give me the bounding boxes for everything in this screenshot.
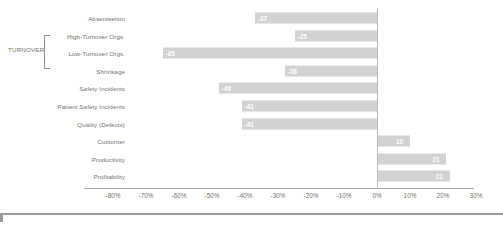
bar bbox=[377, 136, 410, 147]
category-label: Customer bbox=[0, 138, 125, 145]
bar bbox=[295, 30, 378, 41]
bar bbox=[242, 101, 377, 112]
category-label: Productivity bbox=[0, 155, 125, 162]
bar-value-label: -28 bbox=[288, 67, 297, 74]
category-label: Profitability bbox=[0, 173, 125, 180]
chart-row: Safety Incidents-48 bbox=[0, 80, 503, 96]
category-label: Quality (Defects) bbox=[0, 120, 125, 127]
bar-value-label: -25 bbox=[298, 32, 307, 39]
bar-value-label: -48 bbox=[222, 85, 231, 92]
x-tick-label: 30% bbox=[456, 191, 496, 200]
bar-value-label: 21 bbox=[432, 155, 439, 162]
turnover-group-label: TURNOVER bbox=[8, 46, 44, 54]
chart-row: Absenteeism-37 bbox=[0, 10, 503, 26]
x-axis-line bbox=[84, 188, 474, 189]
category-label: Absenteeism bbox=[0, 15, 125, 22]
bar-value-label: -41 bbox=[245, 103, 254, 110]
chart-row: Quality (Defects)-41 bbox=[0, 116, 503, 132]
category-label: Safety Incidents bbox=[0, 85, 125, 92]
chart-row: Productivity21 bbox=[0, 151, 503, 167]
bar bbox=[219, 83, 377, 94]
turnover-group: TURNOVER bbox=[0, 33, 120, 69]
bar-value-label: -41 bbox=[245, 120, 254, 127]
zero-axis-line bbox=[377, 8, 378, 188]
bar-value-label: -37 bbox=[258, 15, 267, 22]
bar-value-label: 10 bbox=[396, 138, 403, 145]
category-label: Patient Safety Incidents bbox=[0, 103, 125, 110]
x-axis-tick-labels: -80%-70%-60%-50%-40%-30%-20%-10%0%10%20%… bbox=[0, 191, 503, 205]
chart-row: Patient Safety Incidents-41 bbox=[0, 98, 503, 114]
turnover-bracket bbox=[44, 35, 50, 69]
bar bbox=[255, 13, 377, 24]
bar-value-label: 22 bbox=[436, 173, 443, 180]
bar bbox=[242, 118, 377, 129]
chart-row: Profitability22 bbox=[0, 168, 503, 184]
bottom-rule bbox=[0, 213, 503, 215]
plot-area: Absenteeism-37High-Turnover Orgs.-25Low-… bbox=[0, 0, 503, 190]
bar-value-label: -65 bbox=[166, 50, 175, 57]
bar bbox=[163, 48, 378, 59]
bar-chart: Absenteeism-37High-Turnover Orgs.-25Low-… bbox=[0, 0, 503, 228]
bottom-rule-cap bbox=[0, 213, 3, 222]
bar bbox=[285, 65, 377, 76]
chart-row: Customer10 bbox=[0, 133, 503, 149]
